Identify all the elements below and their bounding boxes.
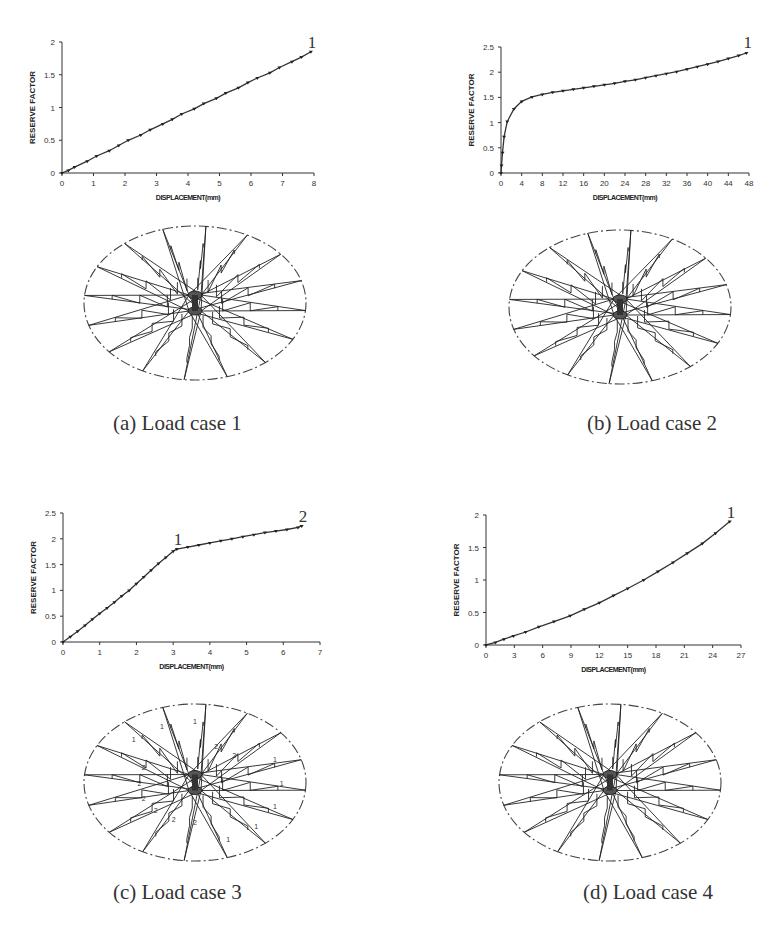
x-tick-label: 8 <box>540 179 545 188</box>
y-axis-label: RESERVE FACTOR <box>29 541 38 614</box>
dome-plan-a <box>80 222 310 384</box>
plastic-hinge-label: 1 <box>193 718 197 725</box>
x-tick-label: 48 <box>745 179 754 188</box>
plastic-hinge-label: 1 <box>226 836 230 843</box>
plastic-hinge-label: 2 <box>138 780 142 787</box>
structure-diagram-c: 1111222222111221 <box>80 700 310 865</box>
x-tick-label: 32 <box>662 179 671 188</box>
point-annotation: 1 <box>727 503 736 522</box>
x-axis-label: DISPLACEMENT(mm) <box>156 194 221 202</box>
y-axis-label: RESERVE FACTOR <box>452 543 461 616</box>
y-tick-label: 1 <box>52 586 57 595</box>
y-tick-label: 1 <box>475 576 480 585</box>
y-tick-label: 0 <box>51 169 56 178</box>
y-tick-label: 1.5 <box>44 71 56 80</box>
x-tick-label: 0 <box>484 651 489 660</box>
x-tick-label: 1 <box>97 648 102 657</box>
y-tick-label: 1 <box>490 119 495 128</box>
x-tick-label: 5 <box>217 179 222 188</box>
x-tick-label: 3 <box>171 648 176 657</box>
y-axis-label: RESERVE FACTOR <box>467 73 476 146</box>
y-tick-label: 0.5 <box>44 136 56 145</box>
plastic-hinge-label: 2 <box>193 819 197 826</box>
x-tick-label: 0 <box>60 179 65 188</box>
x-tick-label: 8 <box>312 179 317 188</box>
y-tick-label: 0.5 <box>468 609 480 618</box>
series-line <box>486 522 730 646</box>
y-tick-label: 1.5 <box>45 561 57 570</box>
chart-panel-a: 00.511.52012345678DISPLACEMENT(mm)RESERV… <box>20 30 340 210</box>
x-tick-label: 7 <box>318 648 323 657</box>
x-tick-label: 24 <box>708 651 717 660</box>
x-tick-label: 24 <box>621 179 630 188</box>
plastic-hinge-label: 1 <box>273 756 277 763</box>
dome-plan-d <box>495 700 725 865</box>
x-tick-label: 18 <box>652 651 661 660</box>
structure-diagram-a <box>80 222 310 384</box>
x-tick-label: 4 <box>208 648 213 657</box>
plastic-hinge-label: 2 <box>232 752 236 759</box>
point-annotation: 1 <box>308 33 317 52</box>
x-tick-label: 6 <box>281 648 286 657</box>
x-tick-label: 9 <box>569 651 574 660</box>
caption-b: (b) Load case 2 <box>587 411 717 436</box>
x-tick-label: 7 <box>280 179 285 188</box>
chart-c: 00.511.522.501234567DISPLACEMENT(mm)RESE… <box>20 500 340 685</box>
x-tick-label: 1 <box>91 179 96 188</box>
x-tick-label: 0 <box>499 179 504 188</box>
y-tick-label: 2.5 <box>483 43 495 52</box>
x-tick-label: 15 <box>623 651 632 660</box>
series-line <box>62 52 311 173</box>
series-line <box>501 53 746 173</box>
plastic-hinge-label: 1 <box>254 823 258 830</box>
caption-c: (c) Load case 3 <box>113 880 242 905</box>
x-tick-label: 12 <box>559 179 568 188</box>
y-tick-label: 2.5 <box>45 509 57 518</box>
x-tick-label: 27 <box>737 651 746 660</box>
plastic-hinge-label: 1 <box>273 803 277 810</box>
x-tick-label: 12 <box>595 651 604 660</box>
y-tick-label: 1 <box>51 104 56 113</box>
y-tick-label: 0.5 <box>483 144 495 153</box>
x-tick-label: 28 <box>641 179 650 188</box>
plastic-hinge-label: 2 <box>154 807 158 814</box>
plastic-hinge-label: 2 <box>214 743 218 750</box>
x-tick-label: 0 <box>61 648 66 657</box>
x-axis-label: DISPLACEMENT(mm) <box>593 194 658 202</box>
plastic-hinge-label: 1 <box>160 723 164 730</box>
y-tick-label: 0 <box>475 641 480 650</box>
plastic-hinge-label: 2 <box>142 795 146 802</box>
hub-core <box>192 295 198 311</box>
x-tick-label: 2 <box>123 179 128 188</box>
plastic-hinge-label: 1 <box>132 736 136 743</box>
data-marker <box>505 121 509 124</box>
plastic-hinge-label: 2 <box>172 816 176 823</box>
chart-panel-d: 00.511.520369121518212427DISPLACEMENT(mm… <box>440 500 770 685</box>
chart-axes: 00.511.522.504812162024283236404448DISPL… <box>467 43 754 202</box>
x-tick-label: 4 <box>519 179 524 188</box>
point-annotation: 1 <box>743 33 752 52</box>
y-axis-label: RESERVE FACTOR <box>28 71 37 144</box>
chart-b: 00.511.522.504812162024283236404448DISPL… <box>450 30 770 215</box>
y-tick-label: 2 <box>51 38 56 47</box>
y-tick-label: 2 <box>475 511 480 520</box>
x-tick-label: 16 <box>579 179 588 188</box>
plastic-hinge-label: 2 <box>142 764 146 771</box>
data-marker <box>502 136 506 139</box>
point-annotation: 1 <box>174 530 183 549</box>
point-annotation: 2 <box>299 507 308 526</box>
caption-a: (a) Load case 1 <box>113 411 242 436</box>
caption-d: (d) Load case 4 <box>583 880 713 905</box>
chart-a: 00.511.52012345678DISPLACEMENT(mm)RESERV… <box>20 30 340 210</box>
x-tick-label: 2 <box>134 648 139 657</box>
chart-axes: 00.511.520369121518212427DISPLACEMENT(mm… <box>452 511 746 674</box>
chart-panel-c: 00.511.522.501234567DISPLACEMENT(mm)RESE… <box>20 500 340 685</box>
hub-core <box>607 775 613 791</box>
structure-diagram-d <box>495 700 725 865</box>
chart-panel-b: 00.511.522.504812162024283236404448DISPL… <box>450 30 770 215</box>
dome-plan-b <box>505 226 735 388</box>
x-axis-label: DISPLACEMENT(mm) <box>581 666 646 674</box>
x-tick-label: 6 <box>249 179 254 188</box>
y-tick-label: 2 <box>52 535 57 544</box>
y-tick-label: 1.5 <box>483 93 495 102</box>
